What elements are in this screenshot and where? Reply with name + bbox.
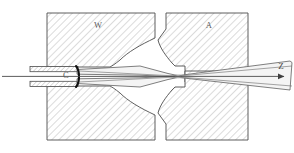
label-axis-z: Z [278, 61, 284, 71]
beam-upper-left-lobe [77, 66, 178, 77]
beam-lower-left-lobe [77, 76, 178, 87]
label-anode: A [206, 20, 213, 30]
wehnelt-cylinder-lower [47, 86, 155, 140]
label-wehnelt: W [94, 20, 102, 30]
cathode-lead-upper [30, 67, 78, 72]
wehnelt-lower-body [47, 86, 155, 140]
cathode-lead-lower [30, 81, 78, 86]
gun-cross-section-svg: W A C Z [0, 0, 294, 153]
label-cathode: C [63, 70, 69, 80]
cathode-support-lower [30, 81, 78, 86]
cathode-support-upper [30, 67, 78, 72]
electron-gun-diagram: W A C Z [0, 0, 294, 153]
